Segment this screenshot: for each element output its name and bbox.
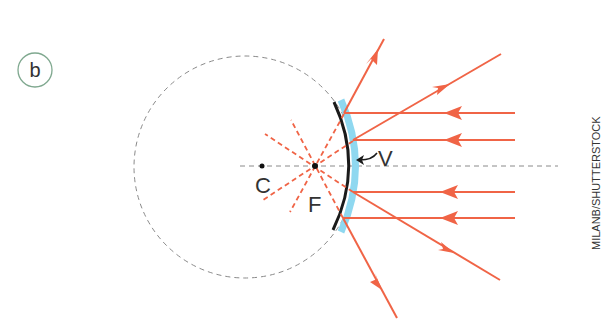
focus-label: F bbox=[308, 192, 321, 217]
panel-label: b bbox=[18, 53, 52, 87]
reflected-rays bbox=[343, 39, 501, 318]
panel-label-text: b bbox=[29, 59, 40, 81]
photo-credit: MILANB/SHUTTERSTOCK bbox=[590, 116, 602, 250]
center-point bbox=[260, 164, 265, 169]
convex-mirror-diagram: b C F V bbox=[0, 0, 613, 330]
curvature-circle bbox=[134, 56, 356, 278]
vertex-label: V bbox=[378, 146, 393, 171]
focal-point bbox=[312, 163, 318, 169]
center-label: C bbox=[255, 173, 271, 198]
